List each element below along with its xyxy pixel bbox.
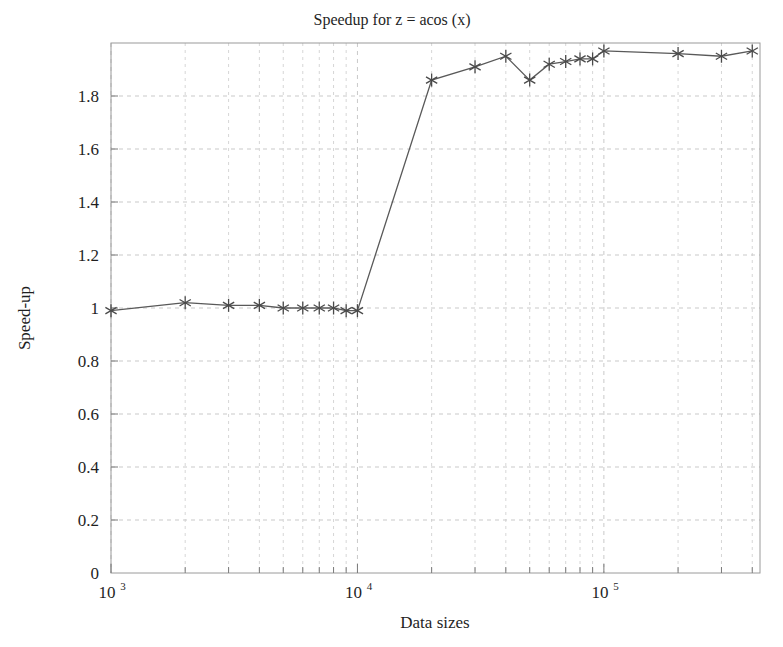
speedup-line-chart: 00.20.40.60.811.21.41.61.8 103104105 Spe… [0,0,783,647]
series-line-speedup [111,51,752,311]
chart-figure: 00.20.40.60.811.21.41.61.8 103104105 Spe… [0,0,783,647]
data-point-marker [426,74,437,87]
y-tick-label: 1.6 [78,140,99,159]
x-tick-label-exponent: 4 [367,580,373,592]
y-tick-label: 0 [91,564,100,583]
y-tick-label: 0.2 [78,511,99,530]
x-tick-label-exponent: 5 [613,580,619,592]
y-tick-label: 1.8 [78,87,99,106]
data-point-marker [747,44,758,57]
minor-gridlines [185,43,752,573]
y-tick-label: 1.4 [78,193,100,212]
y-axis-tick-labels: 00.20.40.60.811.21.41.61.8 [78,87,100,583]
y-tick-label: 0.8 [78,352,99,371]
x-tick-label: 10 [99,583,116,602]
x-axis-tick-labels: 103104105 [99,580,620,602]
gridlines [111,43,760,573]
y-tick-label: 0.4 [78,458,100,477]
data-point-marker [469,60,480,73]
y-tick-label: 0.6 [78,405,99,424]
x-tick-label: 10 [591,583,608,602]
axis-tickmarks [111,96,752,573]
y-tick-label: 1.2 [78,246,99,265]
x-axis-label: Data sizes [400,613,469,632]
y-axis-label: Speed-up [15,286,34,350]
y-tick-label: 1 [91,299,100,318]
x-tick-label-exponent: 3 [120,580,126,592]
x-tick-label: 10 [345,583,362,602]
chart-title: Speedup for z = acos (x) [314,11,471,29]
